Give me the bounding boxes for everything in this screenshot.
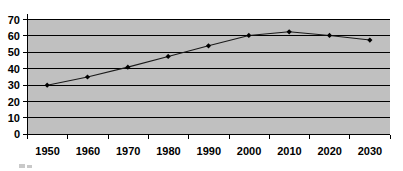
y-axis-labels: 70 60 50 40 30 20 10 0 [8,14,20,141]
line-chart: 70 60 50 40 30 20 10 0 1950 1960 1970 19… [0,0,403,171]
y-tick-label-30: 30 [8,79,20,91]
y-tick-label-70: 70 [8,14,20,26]
x-axis-labels: 1950 1960 1970 1980 1990 2000 2010 2020 … [35,145,382,157]
x-tick-label-1970: 1970 [116,145,140,157]
y-tick-label-60: 60 [8,30,20,42]
x-axis-ticks [28,135,391,140]
x-tick-label-2000: 2000 [237,145,261,157]
y-tick-label-10: 10 [8,112,20,124]
x-tick-label-1990: 1990 [197,145,221,157]
y-tick-label-20: 20 [8,96,20,108]
y-tick-label-40: 40 [8,63,20,75]
x-tick-label-2010: 2010 [277,145,301,157]
x-tick-label-1960: 1960 [76,145,100,157]
y-axis-ticks [23,20,27,135]
x-tick-label-1950: 1950 [35,145,59,157]
y-tick-label-0: 0 [14,128,20,140]
chart-container: 70 60 50 40 30 20 10 0 1950 1960 1970 19… [0,0,403,171]
y-tick-label-50: 50 [8,46,20,58]
scan-artifact [19,164,32,168]
x-tick-label-2030: 2030 [358,145,382,157]
x-tick-label-1980: 1980 [156,145,180,157]
x-tick-label-2020: 2020 [317,145,341,157]
